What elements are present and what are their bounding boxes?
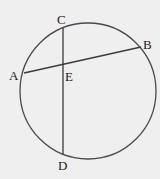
point-label-d: D: [58, 158, 67, 173]
chord-ab: [24, 47, 141, 73]
point-label-a: A: [9, 68, 19, 83]
circle-chords-diagram: C B A E D: [0, 0, 160, 179]
point-label-c: C: [57, 12, 66, 27]
point-label-b: B: [143, 37, 152, 52]
point-label-e: E: [65, 69, 73, 84]
circle: [20, 23, 156, 159]
